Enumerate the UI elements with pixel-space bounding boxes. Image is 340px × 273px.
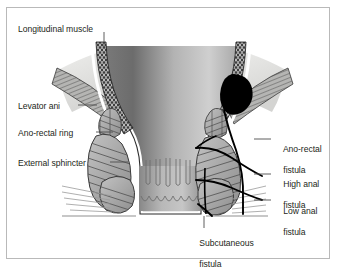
label-external-sphincter: External sphincter — [18, 158, 86, 168]
illustration-body — [52, 32, 293, 228]
label-ano-rectal-fistula-line1: Ano-rectal — [283, 144, 322, 154]
label-subcutaneous-fistula: Subcutaneous fistula — [190, 228, 254, 273]
label-low-anal-fistula-line1: Low anal — [283, 206, 317, 216]
label-low-anal-fistula-line2: fistula — [283, 227, 305, 237]
label-levator-ani: Levator ani — [18, 101, 60, 111]
label-high-anal-fistula-line1: High anal — [283, 179, 319, 189]
label-subcutaneous-fistula-line1: Subcutaneous — [199, 238, 253, 248]
label-subcutaneous-fistula-line2: fistula — [199, 259, 221, 269]
figure-container: Longitudinal muscle Levator ani Ano-rect… — [0, 0, 340, 273]
label-longitudinal-muscle: Longitudinal muscle — [18, 24, 93, 34]
label-ano-rectal-ring: Ano-rectal ring — [18, 128, 73, 138]
label-low-anal-fistula: Low anal fistula — [274, 196, 317, 248]
